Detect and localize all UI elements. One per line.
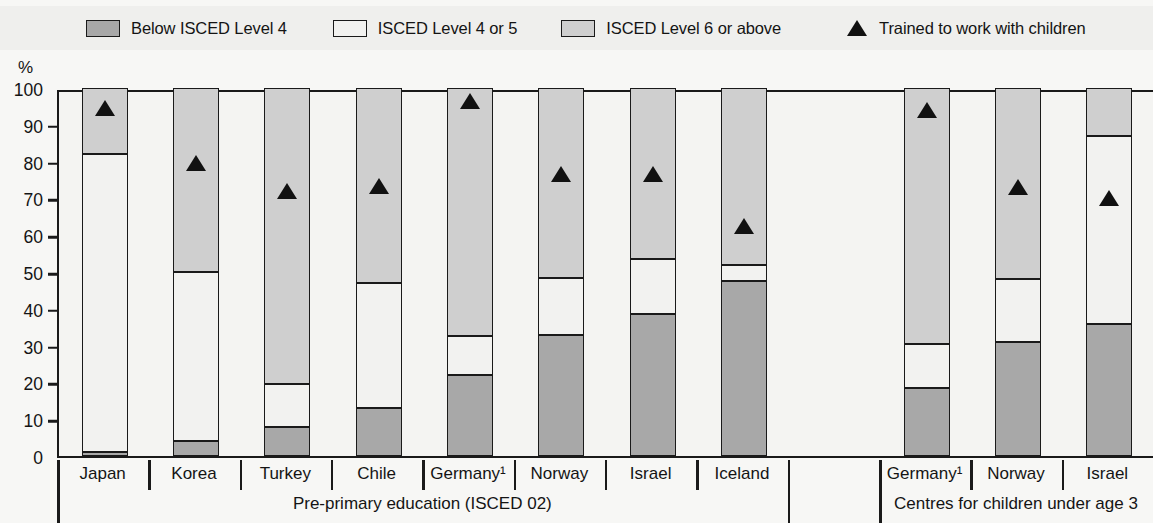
x-axis-category-separator	[148, 460, 150, 490]
legend-item-isced-4-or-5: ISCED Level 4 or 5	[333, 19, 517, 38]
y-axis-tick-label: 0	[33, 448, 43, 469]
bar-segment-isced-4-or-5	[1086, 136, 1132, 324]
x-axis-category-label: Chile	[357, 464, 396, 484]
y-axis-tick-label: 80	[24, 153, 43, 174]
y-axis-tick-label: 20	[24, 374, 43, 395]
x-axis-category-label: Iceland	[715, 464, 770, 484]
bar-norway-9[interactable]	[995, 92, 1041, 456]
bar-segment-isced-4-or-5	[630, 259, 676, 314]
trained-marker-triangle-icon	[95, 100, 115, 116]
bar-germany-8[interactable]	[904, 92, 950, 456]
bar-segment-isced-6-or-above	[264, 88, 310, 384]
legend-label-isced-6-or-above: ISCED Level 6 or above	[606, 19, 781, 38]
bar-norway-5[interactable]	[538, 92, 584, 456]
bar-segment-below-isced-4	[447, 375, 493, 456]
bar-segment-below-isced-4	[630, 314, 676, 456]
trained-marker-triangle-icon	[186, 155, 206, 171]
y-axis-tick-mark	[48, 346, 57, 349]
legend-item-trained-to-work-with-children: Trained to work with children	[847, 19, 1086, 38]
plot-area	[57, 90, 1153, 458]
y-axis-tick-label: 100	[14, 80, 43, 101]
bar-segment-below-isced-4	[173, 441, 219, 456]
bar-turkey-2[interactable]	[264, 92, 310, 456]
bar-japan-0[interactable]	[82, 92, 128, 456]
bar-segment-isced-6-or-above	[82, 88, 128, 154]
legend-item-isced-6-or-above: ISCED Level 6 or above	[561, 19, 781, 38]
y-axis-tick-label: 10	[24, 411, 43, 432]
bar-segment-below-isced-4	[264, 427, 310, 456]
y-axis-tick-mark	[48, 162, 57, 165]
x-axis-category-label: Norway	[531, 464, 589, 484]
bar-israel-10[interactable]	[1086, 92, 1132, 456]
bar-segment-below-isced-4	[721, 281, 767, 456]
square-swatch-light-icon	[561, 20, 595, 37]
bar-segment-isced-4-or-5	[538, 278, 584, 335]
trained-marker-triangle-icon	[643, 166, 663, 182]
x-axis-category-label: Norway	[987, 464, 1045, 484]
y-axis-tick-mark	[48, 199, 57, 202]
bar-segment-isced-6-or-above	[721, 88, 767, 265]
y-axis-tick-label: 40	[24, 300, 43, 321]
x-axis-category-separator	[1062, 460, 1064, 490]
y-axis-tick-label: 60	[24, 227, 43, 248]
x-axis-group-label: Pre-primary education (ISCED 02)	[293, 494, 552, 514]
chart-page: Below ISCED Level 4 ISCED Level 4 or 5 I…	[0, 0, 1153, 523]
x-axis-category-separator	[514, 460, 516, 490]
x-axis-group-separator	[788, 460, 791, 523]
bar-segment-isced-4-or-5	[356, 283, 402, 408]
y-axis-tick-label: 50	[24, 264, 43, 285]
x-axis-category-separator	[696, 460, 698, 490]
bar-segment-below-isced-4	[538, 335, 584, 456]
x-axis-category-separator	[970, 460, 972, 490]
legend-label-trained-to-work-with-children: Trained to work with children	[879, 19, 1086, 38]
bar-segment-isced-6-or-above	[447, 88, 493, 336]
bar-israel-6[interactable]	[630, 92, 676, 456]
bar-segment-isced-4-or-5	[904, 344, 950, 388]
bar-segment-below-isced-4	[904, 388, 950, 456]
bar-iceland-7[interactable]	[721, 92, 767, 456]
y-axis: 0102030405060708090100	[0, 90, 57, 458]
bar-germany-4[interactable]	[447, 92, 493, 456]
bar-segment-below-isced-4	[82, 452, 128, 456]
y-axis-tick-mark	[48, 236, 57, 239]
x-axis-category-label: Israel	[1087, 464, 1129, 484]
trained-marker-triangle-icon	[277, 183, 297, 199]
y-axis-tick-mark	[48, 420, 57, 423]
y-axis-tick-mark	[48, 273, 57, 276]
bar-segment-isced-6-or-above	[1086, 88, 1132, 136]
bar-segment-isced-4-or-5	[173, 272, 219, 441]
x-axis-group-start-separator	[879, 460, 882, 523]
square-swatch-white-icon	[333, 20, 367, 37]
bar-segment-isced-6-or-above	[904, 88, 950, 344]
bar-segment-isced-6-or-above	[538, 88, 584, 278]
y-axis-unit-label: %	[18, 58, 33, 78]
chart-legend: Below ISCED Level 4 ISCED Level 4 or 5 I…	[0, 6, 1153, 50]
y-axis-tick-label: 70	[24, 190, 43, 211]
x-axis-category-separator	[331, 460, 333, 490]
x-axis-category-label: Turkey	[260, 464, 311, 484]
trained-marker-triangle-icon	[917, 102, 937, 118]
x-axis-left-edge	[57, 460, 60, 523]
x-axis-category-label: Germany¹	[887, 464, 963, 484]
x-axis-category-label: Germany¹	[430, 464, 506, 484]
trained-marker-triangle-icon	[460, 93, 480, 109]
bar-segment-isced-4-or-5	[82, 154, 128, 452]
legend-item-below-isced-4: Below ISCED Level 4	[86, 19, 287, 38]
trained-marker-triangle-icon	[1008, 179, 1028, 195]
bar-korea-1[interactable]	[173, 92, 219, 456]
square-swatch-dark-icon	[86, 20, 120, 37]
bar-segment-below-isced-4	[995, 342, 1041, 456]
trained-marker-triangle-icon	[369, 178, 389, 194]
x-axis: JapanKoreaTurkeyChileGermany¹NorwayIsrae…	[57, 460, 1153, 523]
trained-marker-triangle-icon	[551, 166, 571, 182]
y-axis-tick-mark	[48, 126, 57, 129]
bar-segment-isced-4-or-5	[995, 279, 1041, 342]
x-axis-group-label: Centres for children under age 3	[894, 494, 1138, 514]
x-axis-category-label: Korea	[171, 464, 216, 484]
bar-chile-3[interactable]	[356, 92, 402, 456]
trained-marker-triangle-icon	[734, 218, 754, 234]
bar-segment-isced-6-or-above	[173, 88, 219, 272]
y-axis-tick-label: 30	[24, 337, 43, 358]
x-axis-category-separator	[422, 460, 424, 490]
legend-label-isced-4-or-5: ISCED Level 4 or 5	[378, 19, 517, 38]
